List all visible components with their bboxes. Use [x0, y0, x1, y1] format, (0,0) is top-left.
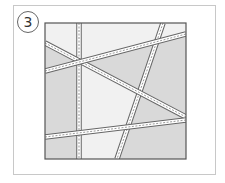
step-number-badge: 3: [17, 11, 39, 33]
quilt-block: [45, 23, 186, 159]
step-number: 3: [24, 15, 33, 29]
